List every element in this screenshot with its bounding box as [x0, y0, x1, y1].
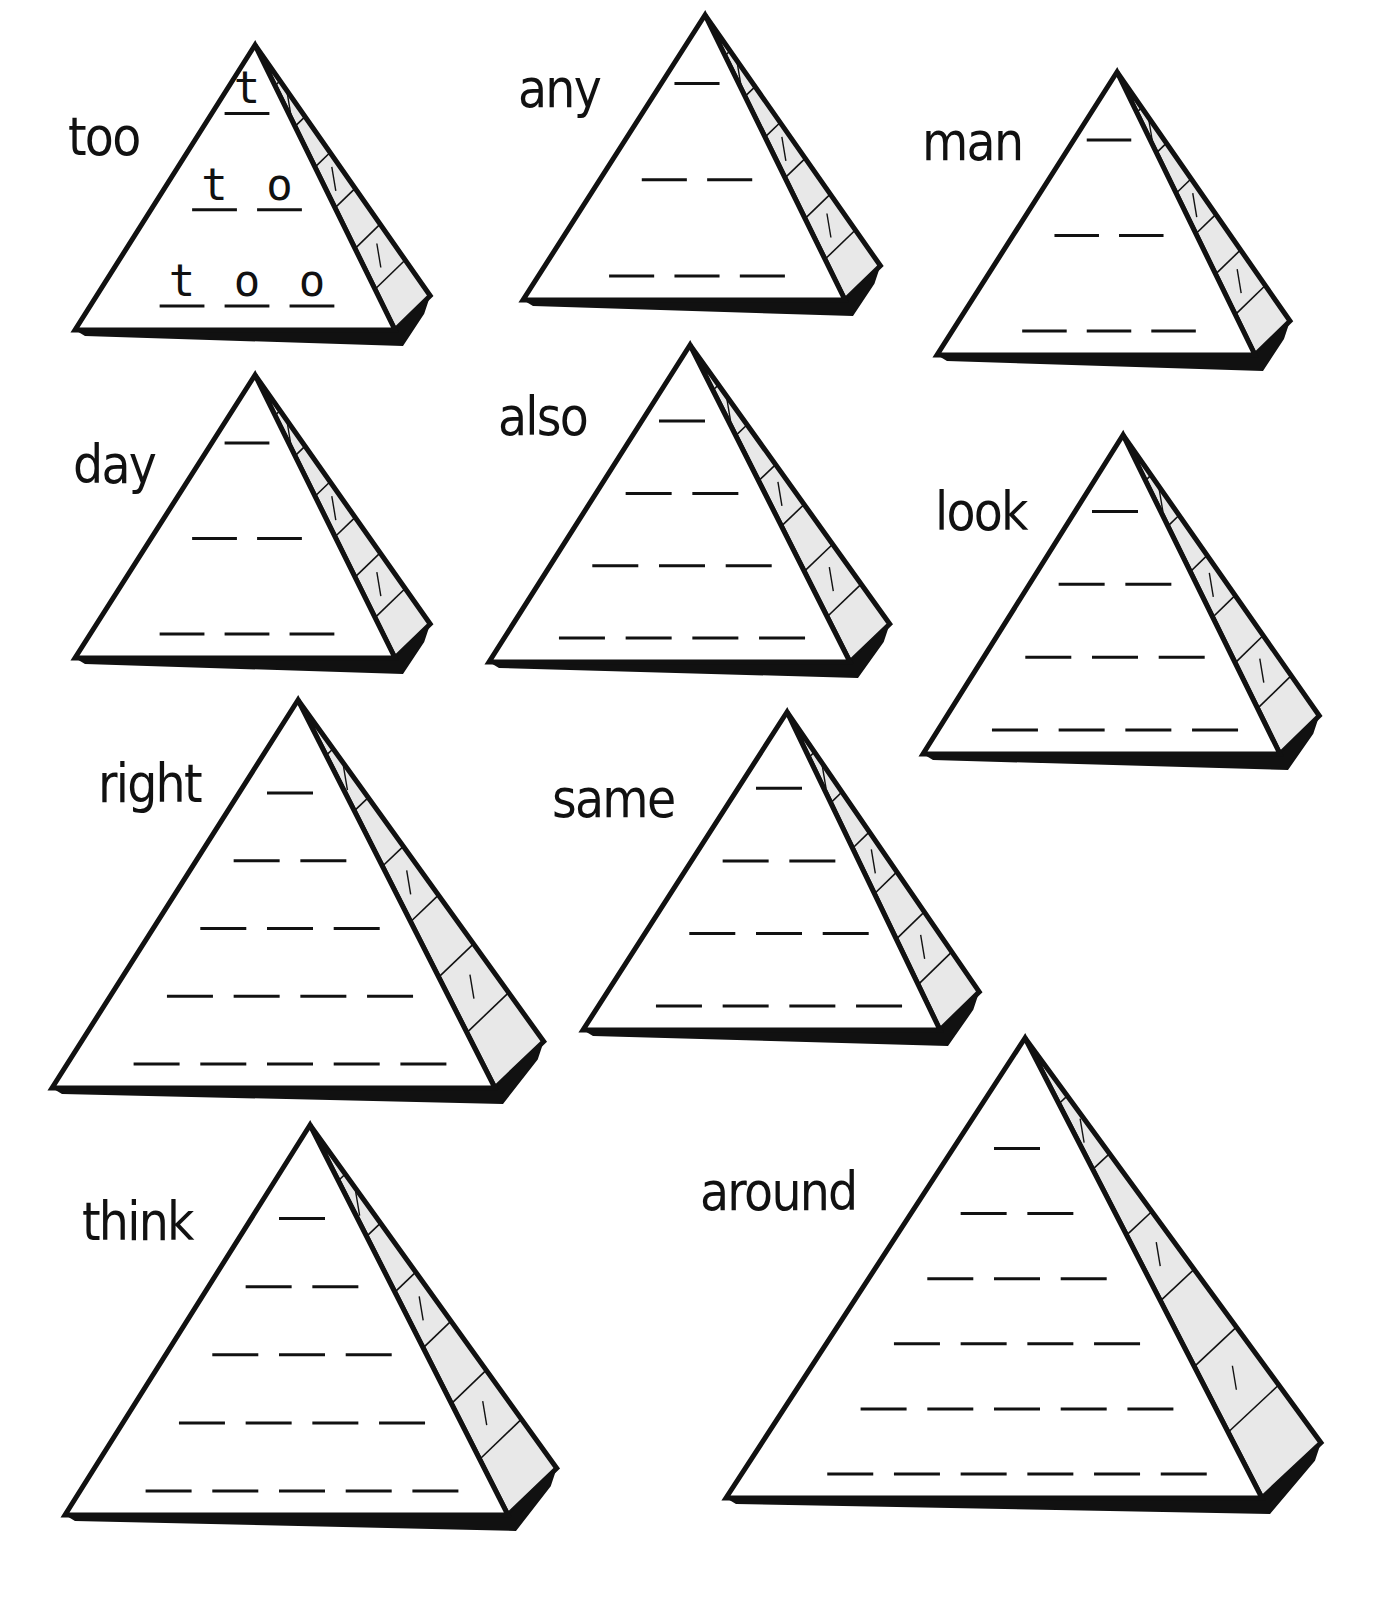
word-label-around: around [700, 1165, 857, 1219]
word-label-too: too [68, 110, 140, 164]
pyramid-same [583, 712, 979, 1046]
handwritten-letter: t [201, 159, 228, 210]
handwritten-letter: o [266, 159, 293, 210]
pyramid-think [65, 1125, 557, 1531]
pyramid-around [726, 1038, 1321, 1514]
pyramid-day [75, 375, 430, 674]
handwritten-letter: o [234, 255, 261, 306]
word-label-day: day [73, 438, 155, 492]
word-label-also: also [498, 390, 587, 444]
pyramid-drawings: ttotoo [0, 0, 1400, 1619]
handwritten-letter: t [169, 255, 196, 306]
word-label-man: man [922, 115, 1022, 169]
word-label-same: same [552, 772, 674, 826]
word-label-look: look [935, 485, 1027, 539]
worksheet-page: ttotoo tooanymandayalsolookrightsamethin… [0, 0, 1400, 1619]
handwritten-letter: o [299, 255, 326, 306]
word-label-any: any [518, 62, 600, 116]
word-label-right: right [98, 757, 201, 811]
pyramid-too: ttotoo [75, 45, 430, 346]
handwritten-letter: t [234, 62, 261, 113]
word-label-think: think [82, 1195, 193, 1249]
